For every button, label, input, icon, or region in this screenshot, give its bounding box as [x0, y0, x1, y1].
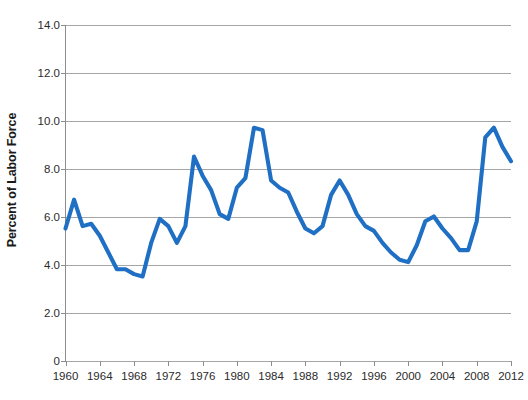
y-axis-tick-labels: 02.04.06.08.010.012.014.0 — [16, 0, 60, 400]
x-axis-tick-label: 1968 — [121, 370, 147, 382]
x-axis-tick-label: 2004 — [430, 370, 456, 382]
x-axis-tick-label: 2008 — [464, 370, 490, 382]
x-axis-tick-label: 1984 — [258, 370, 284, 382]
unemployment-rate-chart: 02.04.06.08.010.012.014.0 19601964196819… — [0, 0, 528, 400]
x-axis-tick-label: 1976 — [190, 370, 216, 382]
x-axis-tick-label: 1972 — [156, 370, 182, 382]
data-series-line — [66, 128, 512, 277]
chart-plot-area — [0, 0, 528, 400]
x-axis-tick-label: 2012 — [498, 370, 524, 382]
x-axis-tick-label: 1992 — [327, 370, 353, 382]
x-axis-tick-label: 1988 — [293, 370, 319, 382]
y-axis-tick-label: 4.0 — [20, 259, 60, 271]
x-axis-tick-label: 1964 — [87, 370, 113, 382]
x-axis-tick-label: 2000 — [395, 370, 421, 382]
y-axis-tick-label: 2.0 — [20, 307, 60, 319]
x-axis-tick-label: 1996 — [361, 370, 387, 382]
y-axis-tick-label: 14.0 — [20, 19, 60, 31]
axis-tickmarks — [61, 26, 512, 366]
x-axis-tick-label: 1980 — [224, 370, 250, 382]
x-axis-tick-labels: 1960196419681972197619801984198819921996… — [0, 370, 528, 394]
x-axis-tick-label: 1960 — [53, 370, 79, 382]
y-axis-tick-label: 12.0 — [20, 67, 60, 79]
y-axis-tick-label: 0 — [20, 355, 60, 367]
y-axis-tick-label: 8.0 — [20, 163, 60, 175]
y-axis-tick-label: 10.0 — [20, 115, 60, 127]
y-axis-tick-label: 6.0 — [20, 211, 60, 223]
